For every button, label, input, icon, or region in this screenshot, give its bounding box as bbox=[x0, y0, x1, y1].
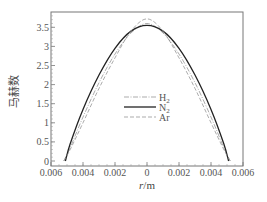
x-tick-label: 0.004 bbox=[200, 167, 223, 178]
y-tick-label: 2 bbox=[44, 79, 49, 90]
x-axis-ticks: 0.0060.0040.00200.0020.0040.006 bbox=[40, 162, 255, 178]
mach-number-chart: 00.511.522.533.5 0.0060.0040.00200.0020.… bbox=[0, 0, 267, 202]
series-line-n2 bbox=[65, 25, 228, 161]
series-layer bbox=[64, 19, 230, 161]
y-tick-label: 3.5 bbox=[37, 22, 50, 33]
x-tick-label: 0.002 bbox=[104, 167, 127, 178]
y-tick-label: 2.5 bbox=[37, 60, 50, 71]
plot-border bbox=[51, 12, 243, 166]
x-tick-label: 0.006 bbox=[40, 167, 63, 178]
y-tick-label: 0 bbox=[44, 156, 49, 167]
x-tick-label: 0.004 bbox=[72, 167, 95, 178]
x-tick-label: 0.006 bbox=[232, 167, 255, 178]
y-tick-label: 0.5 bbox=[37, 136, 50, 147]
x-axis-title: r/m bbox=[139, 179, 155, 191]
legend-label-ar: Ar bbox=[159, 112, 170, 123]
series-line-h2 bbox=[64, 23, 230, 161]
x-tick-label: 0 bbox=[145, 167, 150, 178]
series-line-ar bbox=[64, 19, 230, 161]
y-axis-title: 马赫数 bbox=[8, 75, 20, 108]
y-tick-label: 1.5 bbox=[37, 98, 50, 109]
y-axis-ticks: 00.511.522.533.5 bbox=[37, 16, 56, 167]
plot-frame bbox=[51, 12, 243, 166]
y-tick-label: 1 bbox=[44, 117, 49, 128]
legend: H2N2Ar bbox=[124, 92, 170, 123]
x-tick-label: 0.002 bbox=[168, 167, 191, 178]
y-tick-label: 3 bbox=[44, 41, 49, 52]
